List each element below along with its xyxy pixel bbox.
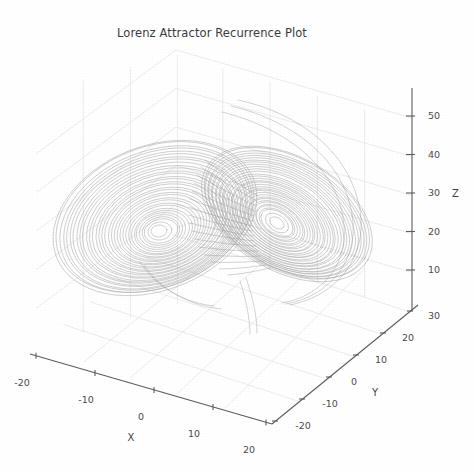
x-tick-label--20: -20 [14,377,30,388]
matplotlib-figure: Lorenz Attractor Recurrence Plot [0,0,474,473]
y-tick-label--10: -10 [322,398,338,409]
y-tick-label--20: -20 [295,420,311,431]
z-tick-label-50: 50 [428,110,440,121]
x-tick-label-0: 0 [138,411,144,422]
y-axis-label: Y [371,387,379,398]
y-tick-label-10: 10 [375,354,387,365]
x-tick-label-10: 10 [188,428,200,439]
x-tick-label--10: -10 [78,394,94,405]
z-axis: 50 40 30 20 10 Z [406,88,459,311]
y-tick-label-0: 0 [351,376,357,387]
axes-3d-plot: -20 -10 0 10 20 X -20 -10 0 10 20 30 Y [0,0,474,473]
z-tick-label-20: 20 [428,226,440,237]
y-tick-label-30: 30 [428,310,440,321]
x-axis-label: X [128,432,135,443]
z-tick-label-30: 30 [428,187,440,198]
x-tick-label-20: 20 [243,444,255,455]
z-tick-label-10: 10 [428,264,440,275]
y-tick-label-20: 20 [402,332,414,343]
z-axis-label: Z [452,188,459,199]
z-tick-label-40: 40 [428,149,440,160]
